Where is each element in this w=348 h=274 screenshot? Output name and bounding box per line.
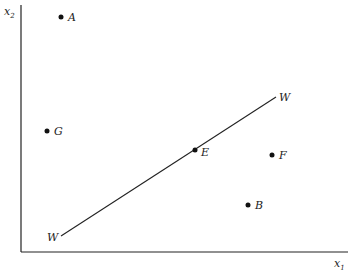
svg-text:G: G xyxy=(54,125,63,138)
w-label-start: W xyxy=(47,231,60,244)
point-g: G xyxy=(45,125,64,138)
w-label-end: W xyxy=(279,91,292,104)
svg-text:A: A xyxy=(67,11,76,24)
x-axis-label: x1 xyxy=(334,257,345,272)
diagram-canvas: x2 x1 W W A G E F B xyxy=(0,0,348,274)
y-axis-label: x2 xyxy=(4,5,15,20)
point-a: A xyxy=(59,11,77,24)
svg-text:F: F xyxy=(278,149,287,162)
svg-text:E: E xyxy=(200,146,209,159)
point-f: F xyxy=(270,149,288,162)
point-e: E xyxy=(193,146,210,159)
svg-text:B: B xyxy=(254,199,263,212)
point-b: B xyxy=(246,199,264,212)
ww-line xyxy=(61,97,276,236)
